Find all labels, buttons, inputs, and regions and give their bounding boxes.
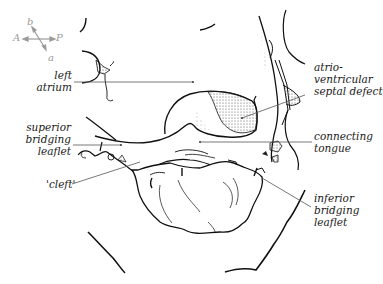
label-line: inferior [314, 192, 359, 204]
label-line: superior [4, 121, 71, 133]
label-line: leaflet [314, 216, 359, 228]
top-center-arc [200, 24, 215, 30]
label-superior-bridging-leaflet: superior bridging leaflet [4, 121, 71, 157]
label-line: atrium [22, 81, 72, 93]
label-connecting-tongue: connecting tongue [314, 130, 373, 154]
left-atrium-structure [82, 51, 114, 101]
label-left-atrium: left atrium [22, 69, 72, 93]
inferior-bridging-leaflet-shape [132, 162, 263, 234]
label-line: connecting [314, 130, 373, 142]
leader-cleft [72, 162, 140, 184]
left-ventricular-wall [88, 232, 125, 273]
septal-defect-region [95, 91, 257, 143]
orientation-compass-icon [23, 27, 55, 50]
label-line: septal defect [314, 85, 383, 97]
label-line: atrio- [314, 61, 383, 73]
top-arc-outline [80, 18, 86, 32]
label-line: bridging [314, 204, 359, 216]
label-line: leaflet [4, 145, 71, 157]
compass-label-a-anterior: A [13, 32, 20, 43]
label-line: ventricular [314, 73, 383, 85]
label-cleft: 'cleft' [46, 178, 75, 190]
label-avsd: atrio- ventricular septal defect [314, 61, 383, 97]
compass-label-b: b [27, 16, 33, 27]
compass-label-p-posterior: P [56, 32, 63, 43]
label-line: bridging [4, 133, 71, 145]
connecting-tongue-fragments [256, 141, 282, 173]
left-contour [86, 117, 116, 140]
compass-label-a: a [48, 52, 54, 63]
label-line: left [22, 69, 72, 81]
label-line: tongue [314, 142, 373, 154]
label-inferior-bridging-leaflet: inferior bridging leaflet [314, 192, 359, 228]
